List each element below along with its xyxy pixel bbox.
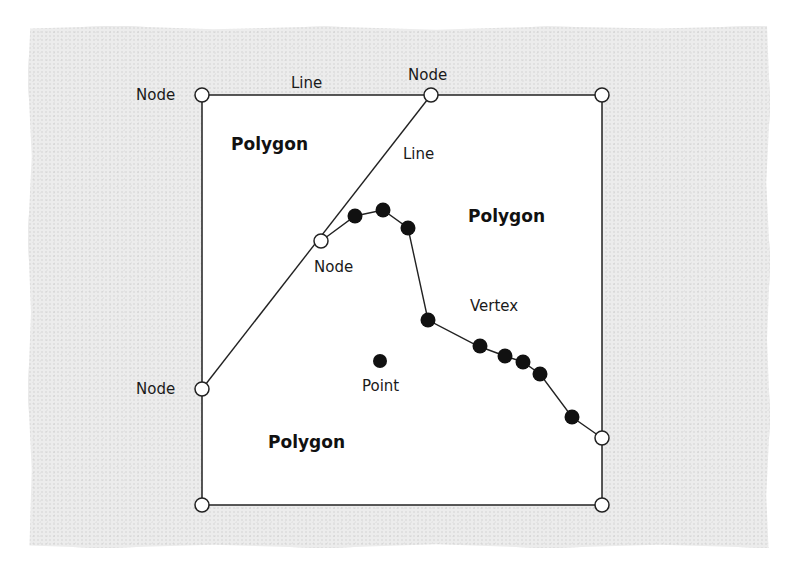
label-polygon-bottom: Polygon xyxy=(268,432,345,452)
vertex-dot xyxy=(565,410,580,425)
vertex-dot xyxy=(516,355,531,370)
map-extent-box xyxy=(202,95,602,505)
label-line-diagonal: Line xyxy=(403,145,434,163)
label-point: Point xyxy=(362,377,399,395)
label-line-top: Line xyxy=(291,74,322,92)
label-node-left: Node xyxy=(136,380,175,398)
label-node-top-middle: Node xyxy=(408,66,447,84)
vertex-dot xyxy=(348,209,363,224)
label-polygon-right: Polygon xyxy=(468,206,545,226)
vertex-dot xyxy=(498,349,513,364)
vertex-dot xyxy=(376,203,391,218)
node-circle xyxy=(424,88,438,102)
vertex-dot xyxy=(473,339,488,354)
node-circle xyxy=(195,498,209,512)
node-circle xyxy=(595,88,609,102)
vertex-dot xyxy=(401,221,416,236)
label-polygon-top-left: Polygon xyxy=(231,134,308,154)
label-node-middle: Node xyxy=(314,258,353,276)
vertex-dot xyxy=(421,313,436,328)
node-circle xyxy=(595,431,609,445)
vertex-dot xyxy=(533,367,548,382)
vector-model-diagram: Node Line Node Line Node Vertex Point No… xyxy=(0,0,810,585)
node-circle xyxy=(195,88,209,102)
label-vertex: Vertex xyxy=(470,297,518,315)
node-circle xyxy=(314,234,328,248)
node-circle xyxy=(595,498,609,512)
node-circle xyxy=(195,382,209,396)
point-marker xyxy=(373,354,387,368)
label-node-top-left: Node xyxy=(136,86,175,104)
